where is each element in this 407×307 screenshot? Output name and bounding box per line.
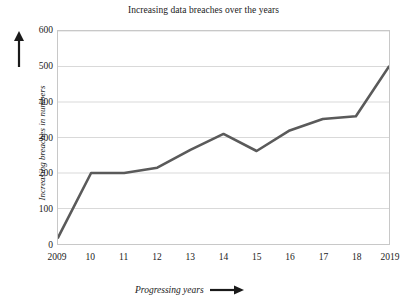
x-axis-tick-label: 2009 <box>48 251 67 263</box>
x-axis-tick-label: 15 <box>252 251 262 263</box>
x-axis-tick-label: 2019 <box>381 251 400 263</box>
x-axis-tick-label: 13 <box>185 251 195 263</box>
plot-svg <box>58 31 389 244</box>
x-axis-tick-label: 10 <box>86 251 96 263</box>
x-axis-tick-label: 11 <box>119 251 128 263</box>
y-axis-tick-label: 600 <box>23 25 53 35</box>
chart-title: Increasing data breaches over the years <box>0 4 407 16</box>
x-axis-tick-label: 14 <box>219 251 229 263</box>
y-axis-title: Increasing breaches in numbers <box>37 63 47 223</box>
plot-area <box>57 30 390 245</box>
x-axis-tick-labels: 20091011121314151617182019 <box>57 251 390 265</box>
x-axis-right-arrow-icon <box>210 285 244 295</box>
y-axis-tick-label: 0 <box>23 240 53 250</box>
x-axis-tick-label: 18 <box>352 251 362 263</box>
y-axis-up-arrow-icon <box>12 31 26 67</box>
x-axis-title: Progressing years <box>135 285 204 295</box>
x-axis-tick-label: 17 <box>319 251 329 263</box>
data-line <box>58 66 389 237</box>
x-axis-tick-label: 16 <box>285 251 295 263</box>
x-axis-title-group: Progressing years <box>135 282 244 298</box>
x-axis-tick-label: 12 <box>152 251 162 263</box>
chart-figure: Increasing data breaches over the years … <box>0 0 407 307</box>
